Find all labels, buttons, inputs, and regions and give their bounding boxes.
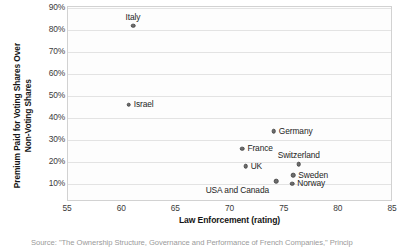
scatter-chart-figure: Premium Paid for Voting Shares Over Non-… <box>0 0 410 248</box>
x-axis-tick-label: 85 <box>377 203 407 213</box>
source-note: Source: "The Ownership Structure, Govern… <box>31 238 403 247</box>
data-point-label: USA and Canada <box>206 186 269 195</box>
data-point-marker[interactable] <box>291 173 296 178</box>
x-axis-tick-label: 75 <box>269 203 299 213</box>
y-axis-tick-label: 30% <box>37 135 65 144</box>
y-axis-tick-label: 80% <box>37 25 65 34</box>
data-point-marker[interactable] <box>290 181 295 186</box>
plot-area: ItalyIsraelGermanyFranceSwitzerlandUKSwe… <box>67 6 392 201</box>
data-point-label: Switzerland <box>278 151 320 160</box>
x-axis-tick-label: 55 <box>52 203 82 213</box>
x-axis-tick-label: 80 <box>323 203 353 213</box>
y-axis-tick-label: 10% <box>37 179 65 188</box>
y-axis-tick-label: 40% <box>37 113 65 122</box>
data-point-label: Germany <box>279 127 313 136</box>
y-axis-tick-label: 60% <box>37 69 65 78</box>
y-axis-tick-label: 90% <box>37 3 65 12</box>
x-axis-tick-label: 70 <box>215 203 245 213</box>
data-point-marker[interactable] <box>243 164 248 169</box>
y-axis-title: Premium Paid for Voting Shares Over Non-… <box>12 16 33 216</box>
data-point-label: Italy <box>126 13 141 22</box>
data-point-label: France <box>247 144 272 153</box>
y-axis-tick-label: 70% <box>37 47 65 56</box>
y-axis-tick-label: 20% <box>37 157 65 166</box>
data-point-marker[interactable] <box>296 162 301 167</box>
data-point-marker[interactable] <box>131 23 136 28</box>
data-point-marker[interactable] <box>274 179 279 184</box>
gridline <box>68 30 391 31</box>
gridline <box>68 140 391 141</box>
gridline <box>68 118 391 119</box>
data-point-marker[interactable] <box>126 103 131 108</box>
gridline <box>68 74 391 75</box>
gridline <box>68 8 391 9</box>
x-axis-tick-label: 60 <box>106 203 136 213</box>
gridline <box>68 52 391 53</box>
x-axis-tick-label: 65 <box>160 203 190 213</box>
x-axis-title: Law Enforcement (rating) <box>67 215 392 225</box>
y-axis-title-line-2: Non-Voting Shares <box>23 16 34 216</box>
gridline <box>68 162 391 163</box>
gridline <box>68 96 391 97</box>
data-point-marker[interactable] <box>240 147 245 152</box>
data-point-label: Norway <box>297 179 325 188</box>
data-point-marker[interactable] <box>272 129 277 134</box>
data-point-label: UK <box>251 162 262 171</box>
x-axis-tick-labels: 55606570758085 <box>67 203 392 215</box>
y-axis-tick-label: 50% <box>37 91 65 100</box>
data-point-label: Israel <box>134 100 154 109</box>
y-axis-title-line-1: Premium Paid for Voting Shares Over <box>12 16 23 216</box>
